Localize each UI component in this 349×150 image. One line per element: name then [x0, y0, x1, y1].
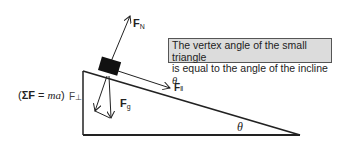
equation-sigma-f: ΣF — [22, 89, 35, 101]
gravity-force-label: Fg — [120, 98, 131, 110]
parallel-force-arrow — [115, 70, 170, 88]
normal-force-label: FN — [133, 18, 145, 30]
gravity-force-arrow — [109, 76, 111, 118]
perpendicular-force-arrow — [95, 76, 107, 111]
normal-force-subscript: N — [140, 23, 145, 30]
block — [98, 57, 121, 76]
explanation-note: The vertex angle of the small triangle i… — [168, 38, 332, 63]
note-line-2-text: is equal to the angle of the incline — [172, 62, 328, 74]
equation-ma: ma — [48, 89, 61, 101]
note-line-2: is equal to the angle of the incline θ. — [172, 63, 328, 86]
incline-force-diagram: (ΣF = ma) FN F‖ Fg F⊥ The vertex angle o… — [0, 0, 349, 150]
perpendicular-force-subscript: ⊥ — [75, 93, 82, 102]
equation-close-paren: ) — [61, 89, 65, 101]
equation-equals: = — [35, 89, 48, 101]
gravity-force-subscript: g — [127, 103, 131, 110]
normal-force-symbol: F — [133, 17, 140, 29]
equation-label: (ΣF = ma) — [18, 90, 65, 101]
normal-force-arrow — [110, 16, 130, 64]
note-line-1: The vertex angle of the small triangle — [172, 40, 328, 63]
perpendicular-force-label: F⊥ — [69, 92, 82, 102]
gravity-force-symbol: F — [120, 97, 127, 109]
small-triangle-side — [95, 111, 110, 118]
note-theta: θ. — [172, 75, 180, 86]
incline-angle-label: θ — [237, 121, 243, 133]
